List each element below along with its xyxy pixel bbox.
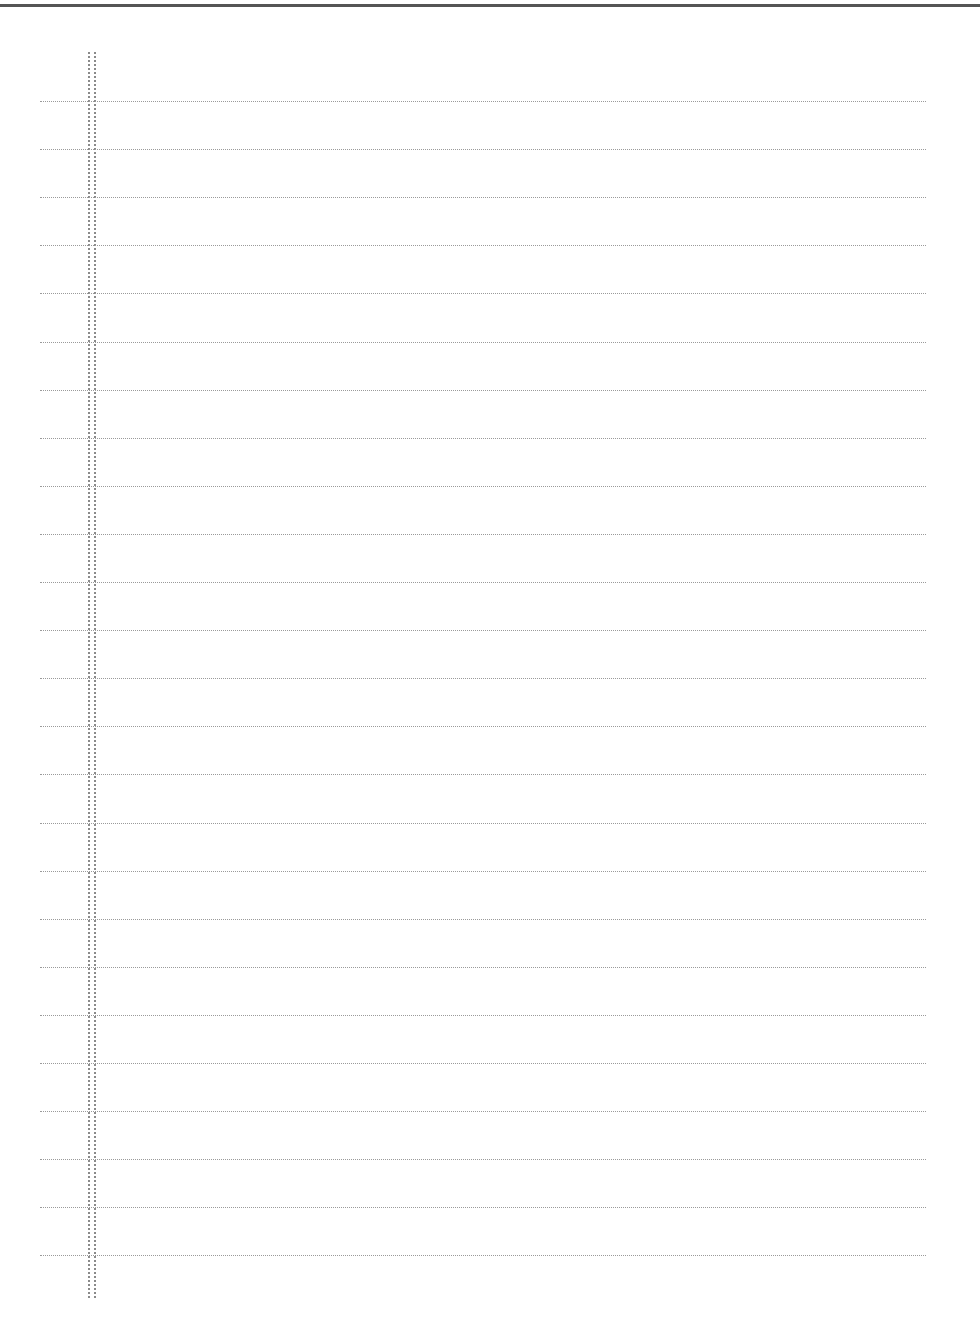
ruled-line — [40, 390, 926, 391]
ruled-line — [40, 630, 926, 631]
ruled-line — [40, 1015, 926, 1016]
ruled-line — [40, 342, 926, 343]
ruled-line — [40, 774, 926, 775]
lined-paper-page — [0, 0, 980, 1342]
ruled-line — [40, 919, 926, 920]
ruled-line — [40, 1159, 926, 1160]
ruled-line — [40, 1063, 926, 1064]
ruled-line — [40, 486, 926, 487]
ruled-line — [40, 582, 926, 583]
ruled-line — [40, 871, 926, 872]
ruled-line — [40, 245, 926, 246]
ruled-line — [40, 101, 926, 102]
ruled-line — [40, 678, 926, 679]
ruled-line — [40, 1111, 926, 1112]
ruled-line — [40, 293, 926, 294]
ruled-line — [40, 534, 926, 535]
top-border-rule — [0, 4, 980, 7]
ruled-line — [40, 967, 926, 968]
ruled-line — [40, 823, 926, 824]
ruled-line — [40, 1255, 926, 1256]
ruled-line — [40, 197, 926, 198]
ruled-line — [40, 726, 926, 727]
ruled-line — [40, 438, 926, 439]
ruled-line — [40, 1207, 926, 1208]
ruled-line — [40, 149, 926, 150]
